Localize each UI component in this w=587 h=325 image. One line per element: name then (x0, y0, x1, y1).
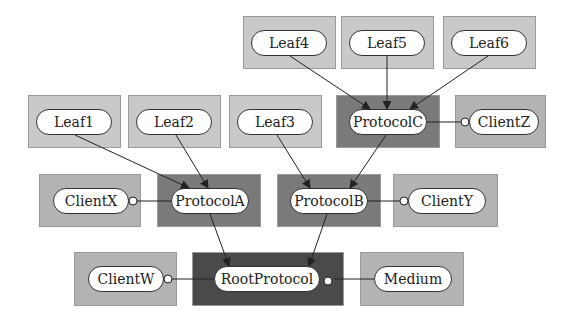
node-leaf3[interactable]: Leaf3 (237, 109, 313, 135)
node-protocolb[interactable]: ProtocolB (290, 188, 368, 214)
node-clientz[interactable]: ClientZ (469, 109, 539, 135)
node-clienty[interactable]: ClientY (408, 188, 486, 214)
node-leaf4[interactable]: Leaf4 (251, 30, 327, 56)
node-protocola[interactable]: ProtocolA (171, 188, 249, 214)
node-clientx[interactable]: ClientX (53, 188, 129, 214)
node-clientw[interactable]: ClientW (88, 266, 164, 292)
node-leaf5[interactable]: Leaf5 (349, 30, 425, 56)
node-rootprotocol[interactable]: RootProtocol (214, 266, 320, 292)
node-leaf6[interactable]: Leaf6 (451, 30, 527, 56)
node-protocolc[interactable]: ProtocolC (349, 109, 427, 135)
node-leaf1[interactable]: Leaf1 (36, 109, 112, 135)
node-medium[interactable]: Medium (374, 266, 452, 292)
node-leaf2[interactable]: Leaf2 (136, 109, 212, 135)
